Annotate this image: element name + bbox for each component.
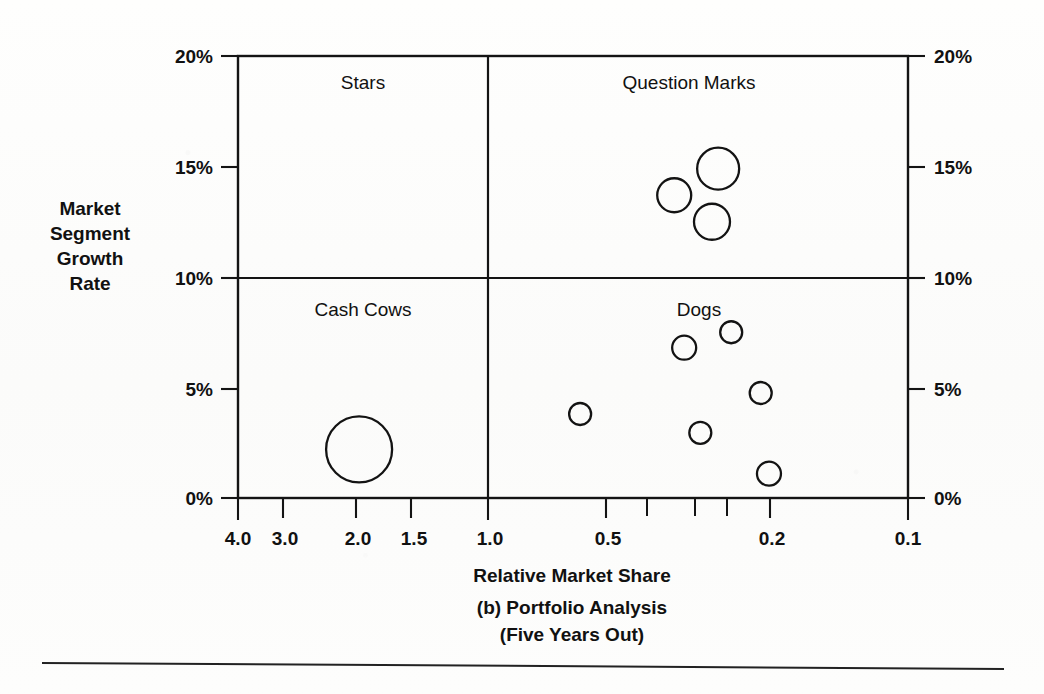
bubble-dogs-5 xyxy=(689,422,711,444)
y-label-right-3: 5% xyxy=(934,379,962,400)
x-axis-labels: 4.0 3.0 2.0 1.5 1.0 0.5 0.2 0.1 xyxy=(225,528,922,549)
bubble-dogs-3 xyxy=(750,382,772,404)
bcg-matrix-chart: 20% 15% 10% 5% 0% 20% 15% 10% 5% 0% xyxy=(0,0,1044,694)
y-label-left-4: 0% xyxy=(186,488,214,509)
x-label-6: 0.2 xyxy=(759,528,785,549)
bubble-cash-cows-1 xyxy=(326,416,392,482)
bubble-dogs-4 xyxy=(569,403,591,425)
y-axis-ticks-right xyxy=(908,56,925,498)
x-axis-ticks xyxy=(238,498,908,520)
bubble-dogs-2 xyxy=(720,321,742,343)
x-label-3: 1.5 xyxy=(401,528,428,549)
y-label-left-3: 5% xyxy=(186,379,214,400)
x-label-0: 4.0 xyxy=(225,528,251,549)
quadrant-label-stars: Stars xyxy=(341,72,385,93)
x-label-4: 1.0 xyxy=(477,528,503,549)
y-label-right-4: 0% xyxy=(934,488,962,509)
bubble-question-marks-2 xyxy=(697,148,739,190)
y-label-left-0: 20% xyxy=(175,46,213,67)
bubble-question-marks-1 xyxy=(657,178,691,212)
x-label-2: 2.0 xyxy=(345,528,371,549)
x-label-5: 0.5 xyxy=(595,528,622,549)
y-axis-labels-left: 20% 15% 10% 5% 0% xyxy=(175,46,213,509)
y-label-right-2: 10% xyxy=(934,268,972,289)
x-label-7: 0.1 xyxy=(895,528,922,549)
figure-root: Market Segment Growth Rate xyxy=(0,0,1044,694)
y-label-left-1: 15% xyxy=(175,157,213,178)
x-axis-title: Relative Market Share xyxy=(473,565,671,586)
figure-caption: Relative Market Share (b) Portfolio Anal… xyxy=(473,565,671,645)
y-label-right-0: 20% xyxy=(934,46,972,67)
quadrant-label-dogs: Dogs xyxy=(677,299,721,320)
quadrant-label-question-marks: Question Marks xyxy=(622,72,755,93)
y-axis-labels-right: 20% 15% 10% 5% 0% xyxy=(934,46,972,509)
caption-line-years: (Five Years Out) xyxy=(500,624,644,645)
y-label-left-2: 10% xyxy=(175,268,213,289)
y-axis-ticks-left xyxy=(221,56,238,498)
x-label-1: 3.0 xyxy=(272,528,298,549)
x-axis-minor-ticks xyxy=(647,498,727,516)
caption-line-b: (b) Portfolio Analysis xyxy=(477,597,667,618)
y-label-right-1: 15% xyxy=(934,157,972,178)
bubble-dogs-6 xyxy=(757,462,781,486)
quadrant-label-cash-cows: Cash Cows xyxy=(314,299,411,320)
bubble-question-marks-3 xyxy=(694,204,730,240)
bubble-dogs-1 xyxy=(672,336,696,360)
